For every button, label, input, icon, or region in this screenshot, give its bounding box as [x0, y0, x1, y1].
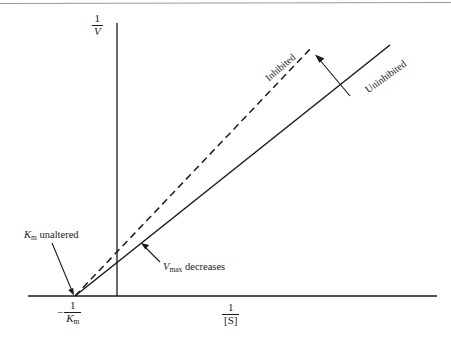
x-intercept-label: − 1 Km [57, 300, 81, 324]
inhibited-line [75, 47, 312, 296]
x-intercept-denominator-base: K [66, 312, 73, 324]
lineweaver-burk-figure: 1 V 1 [S] − 1 Km Km unaltered Vmax decre… [0, 0, 451, 350]
km-unaltered-subscript: m [31, 233, 37, 242]
uninhibited-line [75, 45, 390, 296]
km-unaltered-annotation: Km unaltered [24, 230, 79, 241]
page-rule-top [0, 3, 451, 4]
vmax-decreases-arrow [141, 243, 160, 262]
x-axis-label: 1 [S] [222, 302, 239, 326]
vmax-subscript: max [169, 265, 182, 274]
x-intercept-denominator-subscript: m [74, 317, 80, 326]
vmax-decreases-annotation: Vmax decreases [163, 262, 225, 273]
inhibited-pointer-arrow [315, 55, 350, 97]
plot-canvas [0, 0, 451, 350]
x-axis-label-numerator: 1 [222, 302, 239, 315]
x-intercept-minus-sign: − [57, 306, 63, 318]
x-intercept-denominator: Km [64, 313, 81, 325]
km-unaltered-text: unaltered [37, 229, 79, 240]
km-unaltered-symbol: K [24, 229, 31, 240]
vmax-decreases-text: decreases [182, 261, 225, 272]
km-unaltered-arrow [52, 243, 74, 296]
x-axis-label-denominator: [S] [222, 315, 239, 327]
y-axis-label-numerator: 1 [92, 13, 103, 26]
y-axis-label: 1 V [92, 13, 103, 37]
y-axis-label-denominator: V [92, 26, 103, 38]
